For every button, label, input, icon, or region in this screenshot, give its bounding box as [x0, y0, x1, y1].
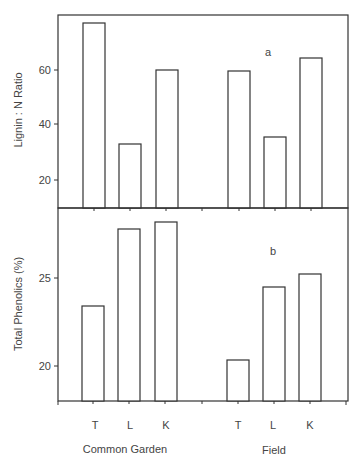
bar-b-field-L: [263, 287, 285, 401]
bar-a-field-K: [300, 58, 322, 208]
b-ytick-label-25: 25: [39, 272, 51, 284]
xcat-common-garden-L: L: [127, 419, 133, 431]
chart-figure: 60 40 20 Lignin : N Ratio a 25 20 Total …: [0, 0, 363, 468]
xcat-common-garden-T: T: [92, 419, 99, 431]
group-label-field: Field: [262, 444, 286, 456]
xcat-common-garden-K: K: [162, 419, 170, 431]
a-ytick-label-60: 60: [39, 64, 51, 76]
panel-b-tag: b: [270, 245, 276, 257]
bar-a-field-L: [264, 137, 286, 208]
bar-a-common-garden-T: [83, 23, 105, 208]
bar-a-field-T: [228, 71, 250, 208]
bar-b-field-T: [227, 360, 249, 401]
a-ytick-label-40: 40: [39, 118, 51, 130]
panel-b-ylabel: Total Phenolics (%): [12, 257, 24, 351]
xcat-field-T: T: [235, 419, 242, 431]
panel-a: 60 40 20 Lignin : N Ratio a: [12, 15, 348, 211]
bar-b-common-garden-L: [118, 229, 140, 401]
xcat-field-L: L: [270, 419, 276, 431]
panel-a-tag: a: [265, 46, 272, 58]
bar-a-common-garden-L: [119, 144, 141, 208]
bar-b-field-K: [299, 274, 321, 401]
bar-b-common-garden-K: [155, 222, 177, 401]
panel-b: 25 20 Total Phenolics (%) b T L K T L K …: [12, 208, 348, 456]
panel-a-ylabel: Lignin : N Ratio: [12, 72, 24, 147]
bar-b-common-garden-T: [82, 306, 104, 401]
a-ytick-label-20: 20: [39, 174, 51, 186]
b-ytick-label-20: 20: [39, 360, 51, 372]
xcat-field-K: K: [306, 419, 314, 431]
bar-a-common-garden-K: [156, 70, 178, 208]
group-label-common-garden: Common Garden: [83, 443, 167, 455]
